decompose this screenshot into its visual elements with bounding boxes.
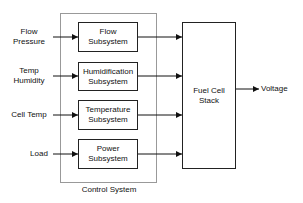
block-label-line: Temperature <box>86 105 131 115</box>
input-label-line: Load <box>26 149 52 159</box>
input-label-line: Pressure <box>10 37 48 47</box>
input-label-flow-pressure: Flow Pressure <box>10 27 48 47</box>
flow-subsystem-block: FlowSubsystem <box>78 22 138 52</box>
block-label-line: Fuel Cell <box>193 86 225 96</box>
input-label-cell-temp: Cell Temp <box>6 110 52 120</box>
block-label-line: Stack <box>193 96 225 106</box>
block-label-line: Subsystem <box>83 77 133 87</box>
input-label-temp-humidity: Temp Humidity <box>10 66 48 86</box>
temperature-subsystem-block: TemperatureSubsystem <box>78 100 138 130</box>
power-subsystem-block: PowerSubsystem <box>78 139 138 169</box>
input-label-load: Load <box>26 149 52 159</box>
input-label-line: Flow <box>10 27 48 37</box>
block-label-line: Subsystem <box>86 115 131 125</box>
block-label-line: Power <box>88 144 128 154</box>
humidification-subsystem-block: HumidificationSubsystem <box>78 62 138 91</box>
block-label-line: Subsystem <box>88 37 128 47</box>
output-label-voltage: Voltage <box>261 84 288 94</box>
input-label-line: Cell Temp <box>6 110 52 120</box>
block-label-line: Humidification <box>83 67 133 77</box>
block-label-line: Subsystem <box>88 154 128 164</box>
control-system-label: Control System <box>72 185 146 195</box>
block-label-line: Flow <box>88 27 128 37</box>
input-label-line: Temp <box>10 66 48 76</box>
input-label-line: Humidity <box>10 76 48 86</box>
fuel-cell-stack-block: Fuel CellStack <box>182 22 236 169</box>
